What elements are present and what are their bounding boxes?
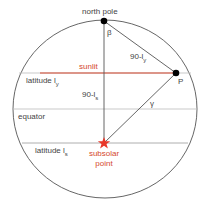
p-arc-sub: y [143, 57, 146, 63]
spherical-triangle-diagram [0, 0, 207, 210]
pole-to-p-line [104, 21, 176, 73]
subsolar-line1: subsolar [84, 150, 124, 158]
point-p-dot-icon [173, 70, 180, 77]
latitude-s-text: latitude l [35, 146, 65, 155]
subsolar-line2: point [84, 160, 124, 168]
north-pole-label: north pole [82, 8, 118, 16]
latitude-y-label: latitude ly [26, 77, 59, 87]
gamma-label: γ [150, 100, 154, 108]
subsolar-point-label: subsolar point [84, 150, 124, 168]
north-pole-dot-icon [101, 18, 108, 25]
s-arc-label: 90-ls [82, 91, 98, 101]
p-arc-label: 90-ly [130, 53, 146, 63]
latitude-s-sub: s [65, 151, 68, 157]
latitude-s-label: latitude ls [35, 147, 68, 157]
s-arc-text: 90-l [82, 90, 95, 99]
p-to-subsolar-line [104, 73, 176, 143]
latitude-y-text: latitude l [26, 76, 56, 85]
beta-label: β [107, 29, 112, 37]
s-arc-sub: s [95, 95, 98, 101]
sunlit-label: sunlit [79, 63, 98, 71]
equator-label: equator [18, 113, 45, 121]
p-arc-text: 90-l [130, 52, 143, 61]
point-p-label: P [178, 78, 183, 86]
latitude-y-sub: y [56, 81, 59, 87]
